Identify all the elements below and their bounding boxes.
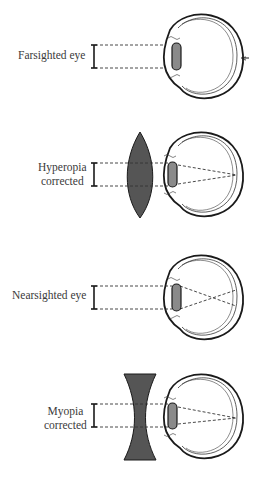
- object-bar-icon: [91, 45, 97, 68]
- panel-hyperopia-corrected: Hyperopia corrected: [0, 120, 259, 240]
- panel-farsighted: Farsighted eye: [0, 0, 259, 120]
- eye-lens-icon: [168, 162, 177, 187]
- object-bar-icon: [91, 163, 97, 186]
- eye-lens-icon: [168, 403, 177, 429]
- object-bar-icon: [91, 404, 97, 427]
- hyperopia-corrected-diagram: [0, 120, 259, 240]
- panel-nearsighted: Nearsighted eye: [0, 240, 259, 360]
- eye-lens-icon: [172, 284, 181, 311]
- myopia-corrected-diagram: [0, 358, 259, 478]
- panel-myopia-corrected: Myopia corrected: [0, 358, 259, 478]
- nearsighted-eye-diagram: [0, 240, 259, 360]
- farsighted-eye-diagram: [0, 0, 259, 120]
- convex-lens-icon: [127, 132, 153, 218]
- concave-lens-icon: [124, 374, 156, 460]
- eye-lens-icon: [172, 43, 181, 70]
- object-bar-icon: [91, 286, 97, 309]
